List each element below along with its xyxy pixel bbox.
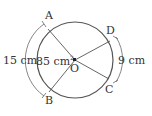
sector-area-value: 85 cm bbox=[36, 55, 70, 68]
label-A: A bbox=[45, 10, 53, 21]
arc-CD-length: 9 cm bbox=[118, 55, 145, 66]
label-C: C bbox=[105, 84, 113, 95]
sector-area-exponent: 2 bbox=[70, 54, 74, 61]
arc-AB-length: 15 cm bbox=[3, 55, 37, 66]
label-B: B bbox=[45, 95, 53, 106]
sector-area: 85 cm2 bbox=[36, 55, 74, 67]
radius-OC bbox=[75, 60, 109, 79]
label-D: D bbox=[106, 25, 115, 36]
tick-C bbox=[113, 80, 118, 83]
radius-OD bbox=[75, 41, 110, 60]
